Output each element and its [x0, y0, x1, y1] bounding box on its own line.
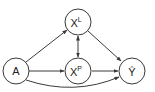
node-xl: XL: [65, 9, 91, 35]
node-yhat-label: Ŷ: [128, 66, 136, 78]
node-a-label: A: [12, 65, 20, 77]
node-a: A: [3, 58, 29, 84]
edge-a-to-xl: [26, 30, 67, 62]
causal-diagram: A XL XP Ŷ: [0, 0, 155, 92]
node-xl-superscript: L: [78, 16, 82, 23]
node-xp: XP: [65, 58, 91, 84]
node-yhat: Ŷ: [119, 58, 145, 84]
edge-xl-to-yhat: [88, 31, 121, 61]
node-xp-superscript: P: [77, 65, 82, 72]
